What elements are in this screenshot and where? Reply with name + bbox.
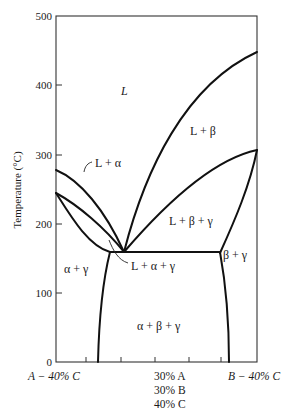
alpha-gamma-boundary bbox=[56, 193, 110, 252]
solidus-alpha bbox=[56, 193, 124, 252]
y-axis-ticks bbox=[56, 85, 62, 293]
y-tick-500: 500 bbox=[36, 10, 53, 22]
region-label-alpha-gamma: α + γ bbox=[64, 262, 89, 276]
region-label-alpha-beta-gamma: α + β + γ bbox=[137, 319, 181, 333]
region-label-beta-gamma: β + γ bbox=[223, 248, 248, 262]
region-label-L-alpha-gamma: L + α + γ bbox=[131, 259, 176, 273]
left-solvus bbox=[98, 252, 110, 362]
right-solvus bbox=[220, 252, 229, 362]
x-axis-ticks bbox=[86, 357, 221, 362]
x-center-comp-b: 30% B bbox=[154, 384, 186, 396]
phase-diagram: 500 400 300 200 100 0 Temperature (°C) bbox=[0, 0, 299, 419]
y-tick-300: 300 bbox=[36, 149, 53, 161]
x-label-right: B − 40% C bbox=[228, 370, 280, 382]
x-label-left: A − 40% C bbox=[27, 370, 80, 382]
x-center-comp-c: 40% C bbox=[154, 398, 186, 410]
y-tick-200: 200 bbox=[36, 218, 53, 230]
beta-gamma-boundary bbox=[220, 150, 257, 253]
region-label-L-beta: L + β bbox=[190, 124, 216, 138]
region-label-L-alpha: L + α bbox=[95, 156, 122, 170]
x-center-comp-a: 30% A bbox=[154, 370, 186, 382]
leader-l-alpha bbox=[84, 162, 92, 172]
y-tick-400: 400 bbox=[36, 79, 53, 91]
y-tick-100: 100 bbox=[36, 287, 53, 299]
l-beta-gamma-upper bbox=[124, 150, 257, 252]
y-tick-0: 0 bbox=[47, 356, 53, 368]
y-axis-title: Temperature (°C) bbox=[11, 151, 24, 229]
phase-boundaries bbox=[56, 52, 257, 362]
phase-diagram-svg: 500 400 300 200 100 0 Temperature (°C) bbox=[0, 0, 299, 419]
region-label-L-beta-gamma: L + β + γ bbox=[169, 214, 214, 228]
region-label-L: L bbox=[120, 84, 128, 98]
